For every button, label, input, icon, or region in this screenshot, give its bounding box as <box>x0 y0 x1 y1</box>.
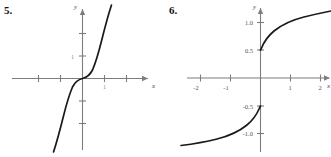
x-axis-arrow <box>324 75 330 81</box>
x-tick-label-2: 2 <box>318 84 321 91</box>
x-tick-label-neg1: -1 <box>223 84 228 91</box>
y-axis-arrow <box>80 9 85 15</box>
y-tick-label-neg1-0: -1.0 <box>243 130 253 137</box>
plot-5: 1 1 x y <box>0 0 166 157</box>
x-tick-label-neg2: -2 <box>193 84 198 91</box>
y-axis-label: y <box>252 3 257 11</box>
y-tick-label-1: 1 <box>71 54 74 60</box>
y-tick-label-neg0-5: -0.5 <box>243 103 253 110</box>
figure-5: 5. 1 1 x y <box>0 0 166 157</box>
y-axis-label: y <box>73 3 78 11</box>
x-axis-label: x <box>151 82 156 90</box>
curve-branch-negative <box>181 106 261 146</box>
figure-pair-page: 5. 1 1 x y 6. <box>0 0 331 157</box>
plot-6: -2 -1 1 2 1.0 0.5 -0.5 -1.0 x y <box>165 0 331 157</box>
figure-6: 6. -2 -1 1 2 1.0 0.5 - <box>165 0 331 157</box>
x-tick-label-1: 1 <box>103 84 106 90</box>
y-tick-label-0-5: 0.5 <box>245 47 253 54</box>
x-tick-label-1: 1 <box>288 84 291 91</box>
curve-branch-positive <box>261 11 331 50</box>
x-axis-arrow <box>142 76 148 82</box>
y-axis-arrow <box>258 8 263 14</box>
x-axis-label: x <box>326 82 331 90</box>
y-tick-label-1-0: 1.0 <box>245 19 253 26</box>
